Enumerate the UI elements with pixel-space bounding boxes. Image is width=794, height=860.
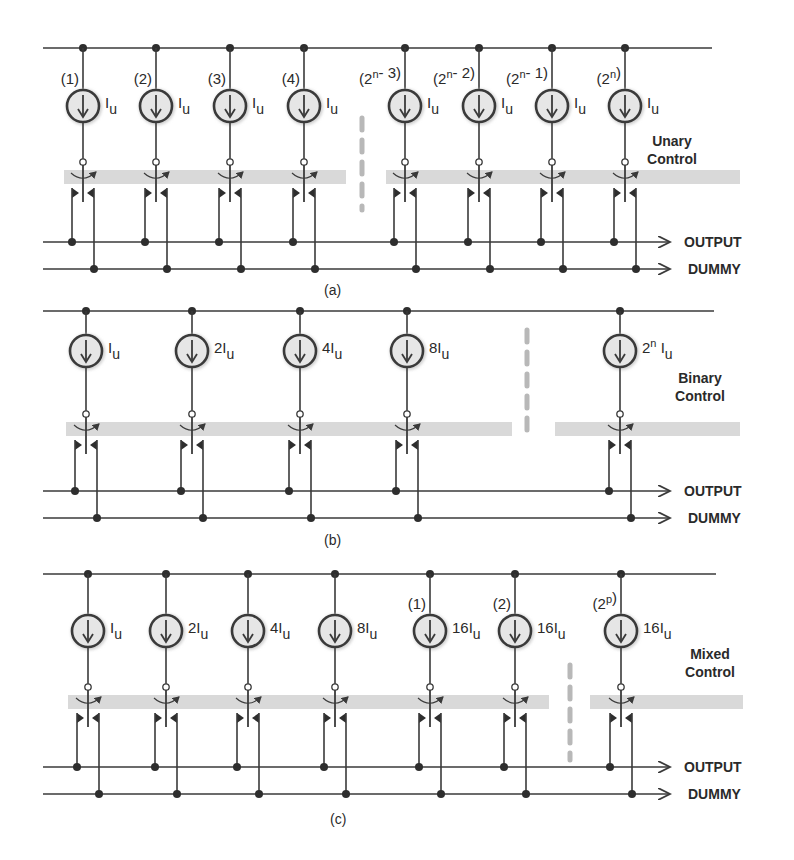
- cell-index-label: (3): [208, 70, 226, 87]
- output-node: [392, 487, 400, 495]
- switch-contact-left-icon: [324, 713, 331, 723]
- current-cell: 8Iu: [390, 307, 449, 522]
- output-node: [500, 763, 508, 771]
- dummy-label: DUMMY: [688, 510, 742, 526]
- dummy-node: [199, 514, 207, 522]
- switch-gate-node: [618, 684, 624, 690]
- current-label: Iu: [110, 619, 122, 642]
- control-bus-band: [590, 695, 743, 709]
- panel-a: OUTPUTDUMMY(1)Iu(2)Iu(3)Iu(4)Iu(2n- 3)Iu…: [43, 44, 742, 298]
- current-cell: 2Iu: [175, 307, 234, 522]
- cell-index-label: (2p): [593, 589, 617, 612]
- output-node: [320, 763, 328, 771]
- current-label: 8Iu: [357, 619, 377, 642]
- switch-contact-right-icon: [90, 440, 97, 450]
- switch-contact-right-icon: [483, 188, 490, 198]
- switch-contact-right-icon: [556, 188, 563, 198]
- current-cell: (2)16Iu: [493, 570, 566, 798]
- switch-gate-node: [476, 159, 482, 165]
- switch-contact-right-icon: [234, 188, 241, 198]
- cell-index-label: (2): [493, 595, 511, 612]
- switch-contact-right-icon: [409, 188, 416, 198]
- dummy-node: [93, 514, 101, 522]
- switch-contact-right-icon: [92, 713, 99, 723]
- switch-contact-right-icon: [304, 440, 311, 450]
- dummy-node: [632, 265, 640, 273]
- output-node: [605, 487, 613, 495]
- output-label: OUTPUT: [684, 234, 742, 250]
- current-cell: 2n Iu: [603, 307, 673, 522]
- switch-contact-left-icon: [77, 713, 84, 723]
- switch-gate-node: [189, 411, 195, 417]
- dummy-node: [237, 265, 245, 273]
- switch-gate-node: [80, 159, 86, 165]
- output-node: [141, 238, 149, 246]
- switch-contact-right-icon: [170, 713, 177, 723]
- switch-contact-left-icon: [155, 713, 162, 723]
- switch-contact-right-icon: [434, 713, 441, 723]
- switch-contact-right-icon: [160, 188, 167, 198]
- switch-contact-left-icon: [468, 188, 475, 198]
- current-cell: (2n- 2)Iu: [433, 44, 513, 273]
- current-label: Iu: [647, 94, 659, 117]
- output-node: [606, 763, 614, 771]
- current-label: Iu: [105, 94, 117, 117]
- cell-index-label: (2): [134, 70, 152, 87]
- switch-contact-right-icon: [196, 440, 203, 450]
- current-cell: 4Iu: [231, 570, 290, 798]
- switch-gate-node: [617, 411, 623, 417]
- output-node: [390, 238, 398, 246]
- dummy-node: [90, 265, 98, 273]
- current-label: 16Iu: [643, 619, 672, 642]
- circuit-diagram: OUTPUTDUMMY(1)Iu(2)Iu(3)Iu(4)Iu(2n- 3)Iu…: [0, 0, 794, 860]
- current-cell: (3)Iu: [208, 44, 264, 273]
- output-node: [289, 238, 297, 246]
- current-cell: Iu: [69, 307, 120, 522]
- switch-gate-node: [163, 684, 169, 690]
- current-label: 8Iu: [429, 339, 449, 362]
- current-label: Iu: [252, 94, 264, 117]
- current-label: 16Iu: [537, 619, 566, 642]
- dummy-node: [522, 790, 530, 798]
- switch-contact-left-icon: [72, 188, 79, 198]
- dummy-node: [412, 265, 420, 273]
- dummy-node: [342, 790, 350, 798]
- output-node: [215, 238, 223, 246]
- current-label: Iu: [574, 94, 586, 117]
- switch-gate-node: [83, 411, 89, 417]
- dummy-node: [173, 790, 181, 798]
- switch-contact-right-icon: [624, 440, 631, 450]
- switch-gate-node: [402, 159, 408, 165]
- current-label: Iu: [427, 94, 439, 117]
- control-type-label: Control: [675, 388, 725, 404]
- current-cell: (1)Iu: [61, 44, 117, 273]
- cell-index-label: (2n): [597, 64, 621, 87]
- output-node: [71, 487, 79, 495]
- switch-contact-right-icon: [625, 713, 632, 723]
- switch-contact-right-icon: [629, 188, 636, 198]
- dummy-node: [437, 790, 445, 798]
- panel-b: OUTPUTDUMMYIu2Iu4Iu8Iu2n IuBinaryControl…: [43, 307, 742, 548]
- switch-gate-node: [332, 684, 338, 690]
- current-cell: (4)Iu: [282, 44, 338, 273]
- current-label: 2Iu: [188, 619, 208, 642]
- switch-gate-node: [404, 411, 410, 417]
- switch-contact-left-icon: [181, 440, 188, 450]
- switch-gate-node: [297, 411, 303, 417]
- switch-contact-left-icon: [289, 440, 296, 450]
- current-label: Iu: [178, 94, 190, 117]
- dummy-node: [95, 790, 103, 798]
- switch-gate-node: [549, 159, 555, 165]
- switch-contact-right-icon: [252, 713, 259, 723]
- control-type-label: Control: [647, 151, 697, 167]
- control-type-label: Control: [685, 664, 735, 680]
- switch-contact-left-icon: [145, 188, 152, 198]
- current-cell: Iu: [71, 570, 122, 798]
- panel-caption: (c): [330, 811, 346, 827]
- panel-caption: (b): [324, 532, 341, 548]
- control-bus-band: [68, 695, 549, 709]
- panel-c: OUTPUTDUMMYIu2Iu4Iu8Iu(1)16Iu(2)16Iu(2p)…: [43, 570, 743, 827]
- current-cell: 8Iu: [318, 570, 377, 798]
- output-node: [73, 763, 81, 771]
- switch-contact-left-icon: [396, 440, 403, 450]
